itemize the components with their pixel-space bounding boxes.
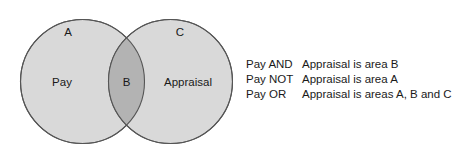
venn-region-label-b: B bbox=[123, 76, 131, 88]
legend-result: Appraisal is area B bbox=[302, 57, 399, 72]
venn-set-label-pay: Pay bbox=[52, 76, 72, 88]
venn-diagram: A C Pay B Appraisal bbox=[0, 0, 245, 161]
venn-region-label-a: A bbox=[64, 26, 72, 38]
venn-region-label-c: C bbox=[176, 26, 184, 38]
legend-expression: Pay OR bbox=[246, 87, 302, 102]
venn-diagram-graphic: A C Pay B Appraisal bbox=[0, 0, 245, 161]
legend-row: Pay AND Appraisal is area B bbox=[246, 57, 438, 72]
legend-result: Appraisal is areas A, B and C bbox=[302, 87, 452, 102]
venn-set-label-appraisal: Appraisal bbox=[164, 76, 212, 88]
legend-row: Pay OR Appraisal is areas A, B and C bbox=[246, 87, 438, 102]
legend-expression: Pay NOT bbox=[246, 72, 302, 87]
legend-expression: Pay AND bbox=[246, 57, 302, 72]
boolean-operations-legend: Pay AND Appraisal is area B Pay NOT Appr… bbox=[246, 57, 438, 102]
legend-result: Appraisal is area A bbox=[302, 72, 398, 87]
legend-row: Pay NOT Appraisal is area A bbox=[246, 72, 438, 87]
